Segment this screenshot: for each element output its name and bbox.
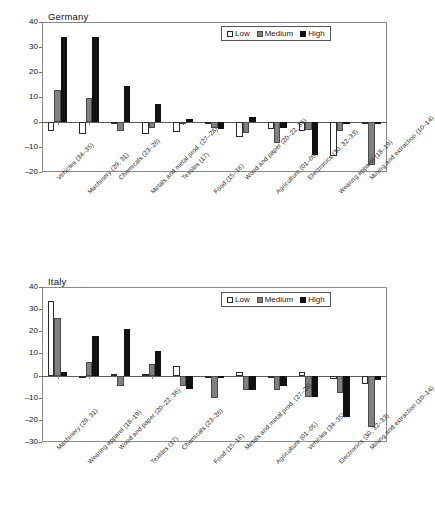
bar-medium: [337, 122, 343, 131]
bar-medium: [368, 376, 374, 427]
bar-high: [61, 372, 67, 375]
legend-germany: Low Medium High: [221, 26, 331, 41]
x-tick-mark: [58, 376, 59, 379]
y-tick-label: –20: [16, 416, 38, 424]
bar-low: [79, 376, 85, 378]
legend-italy: Low Medium High: [221, 292, 331, 307]
y-tick-label: 0: [16, 118, 38, 126]
bar-medium: [117, 376, 123, 386]
y-tick-label: –10: [16, 143, 38, 151]
bar-low: [299, 372, 305, 376]
bar-low: [205, 122, 211, 124]
legend-item-high: High: [300, 29, 324, 38]
bar-medium: [117, 122, 123, 131]
y-tick-mark: [39, 172, 42, 173]
legend-item-medium: Medium: [257, 295, 293, 304]
chart-panel-germany: Germany –20–10010203040 Vehicles (34–35)…: [0, 0, 400, 265]
bar-low: [268, 122, 274, 129]
bar-medium: [243, 122, 249, 133]
bar-high: [375, 122, 381, 124]
legend-label-medium: Medium: [265, 295, 293, 304]
y-tick-label: –20: [16, 168, 38, 176]
legend-item-low: Low: [227, 29, 250, 38]
bar-medium: [337, 376, 343, 393]
legend-label-low: Low: [235, 295, 250, 304]
bar-high: [343, 122, 349, 124]
legend-label-high: High: [308, 295, 324, 304]
y-tick-mark: [39, 398, 42, 399]
bar-low: [142, 122, 148, 134]
bar-low: [48, 122, 54, 131]
y-tick-mark: [39, 420, 42, 421]
bar-low: [268, 376, 274, 378]
x-axis-labels-italy: Machinery (29, 31)Wearing apparel (18–19…: [0, 265, 400, 365]
legend-label-high: High: [308, 29, 324, 38]
bar-medium: [149, 122, 155, 128]
x-tick-mark: [89, 122, 90, 125]
legend-label-medium: Medium: [265, 29, 293, 38]
bar-low: [205, 376, 211, 378]
bar-medium: [243, 376, 249, 391]
bar-low: [173, 122, 179, 132]
x-axis-labels-germany: Vehicles (34–35)Machinery (29, 31)Chemic…: [0, 0, 400, 100]
x-tick-mark: [89, 376, 90, 379]
bar-medium: [305, 122, 311, 130]
bar-high: [280, 122, 286, 128]
legend-swatch-low-icon: [227, 31, 233, 37]
bar-high: [249, 376, 255, 390]
legend-item-low: Low: [227, 295, 250, 304]
bar-high: [155, 104, 161, 122]
bar-low: [111, 374, 117, 376]
bar-medium: [180, 376, 186, 386]
bar-low: [142, 374, 148, 376]
bar-medium: [211, 376, 217, 399]
bar-high: [343, 376, 349, 418]
bar-medium: [180, 122, 186, 124]
legend-item-medium: Medium: [257, 29, 293, 38]
legend-swatch-medium-icon: [257, 31, 263, 37]
bar-low: [111, 122, 117, 124]
bar-high: [218, 122, 224, 129]
y-tick-label: –30: [16, 438, 38, 446]
bar-low: [79, 122, 85, 134]
bar-high: [375, 376, 381, 380]
y-tick-label: 0: [16, 372, 38, 380]
legend-item-high: High: [300, 295, 324, 304]
legend-swatch-medium-icon: [257, 297, 263, 303]
x-tick-mark: [58, 122, 59, 125]
bar-high: [218, 376, 224, 378]
bar-high: [312, 376, 318, 398]
bar-high: [249, 117, 255, 122]
bar-high: [186, 376, 192, 389]
legend-swatch-high-icon: [300, 297, 306, 303]
y-tick-mark: [39, 442, 42, 443]
bar-low: [173, 366, 179, 375]
legend-label-low: Low: [235, 29, 250, 38]
legend-swatch-low-icon: [227, 297, 233, 303]
legend-swatch-high-icon: [300, 31, 306, 37]
bar-medium: [86, 98, 92, 122]
bar-high: [280, 376, 286, 386]
y-tick-label: –10: [16, 394, 38, 402]
bar-low: [330, 376, 336, 380]
y-tick-mark: [39, 147, 42, 148]
x-tick-mark: [152, 376, 153, 379]
bar-high: [186, 119, 192, 122]
chart-panel-italy: Italy –30–20–10010203040 Machinery (29, …: [0, 265, 400, 526]
